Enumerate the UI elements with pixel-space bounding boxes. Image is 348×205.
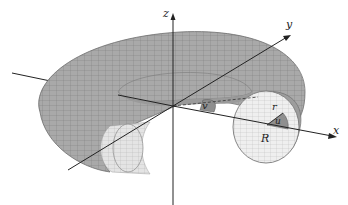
left-cross-section [101, 122, 150, 174]
x-axis-label: x [333, 124, 340, 137]
major-radius-label: R [260, 132, 269, 145]
angle-v-label: v [202, 100, 208, 111]
y-axis-label: y [285, 18, 293, 31]
angle-u-label: u [275, 116, 281, 126]
y-axis-arrow-icon [283, 35, 291, 41]
right-cross-section [233, 91, 301, 163]
torus-diagram: z y x v r u R [0, 0, 348, 205]
z-axis-arrow-icon [171, 13, 176, 20]
z-axis-label: z [162, 7, 169, 20]
